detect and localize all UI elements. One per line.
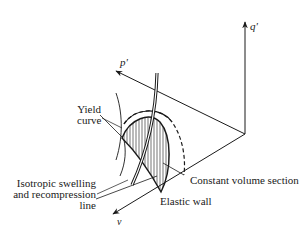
elastic-wall-outline [122,117,169,192]
elastic-wall-label: Elastic wall [160,195,212,207]
yield-curve-label-line2: curve [77,114,101,126]
p-axis [116,71,245,134]
isotropic-label-line3: line [0,199,96,211]
elastic-wall-hatching [124,110,169,200]
isotropic-leader [97,180,128,194]
isotropic-line [96,176,157,199]
p-axis-label: p' [120,56,128,68]
v-axis-label: v [117,216,121,228]
constant-volume-label: Constant volume section [190,174,299,186]
q-axis-label: q' [250,20,258,32]
yield-curve-inner [120,140,125,176]
